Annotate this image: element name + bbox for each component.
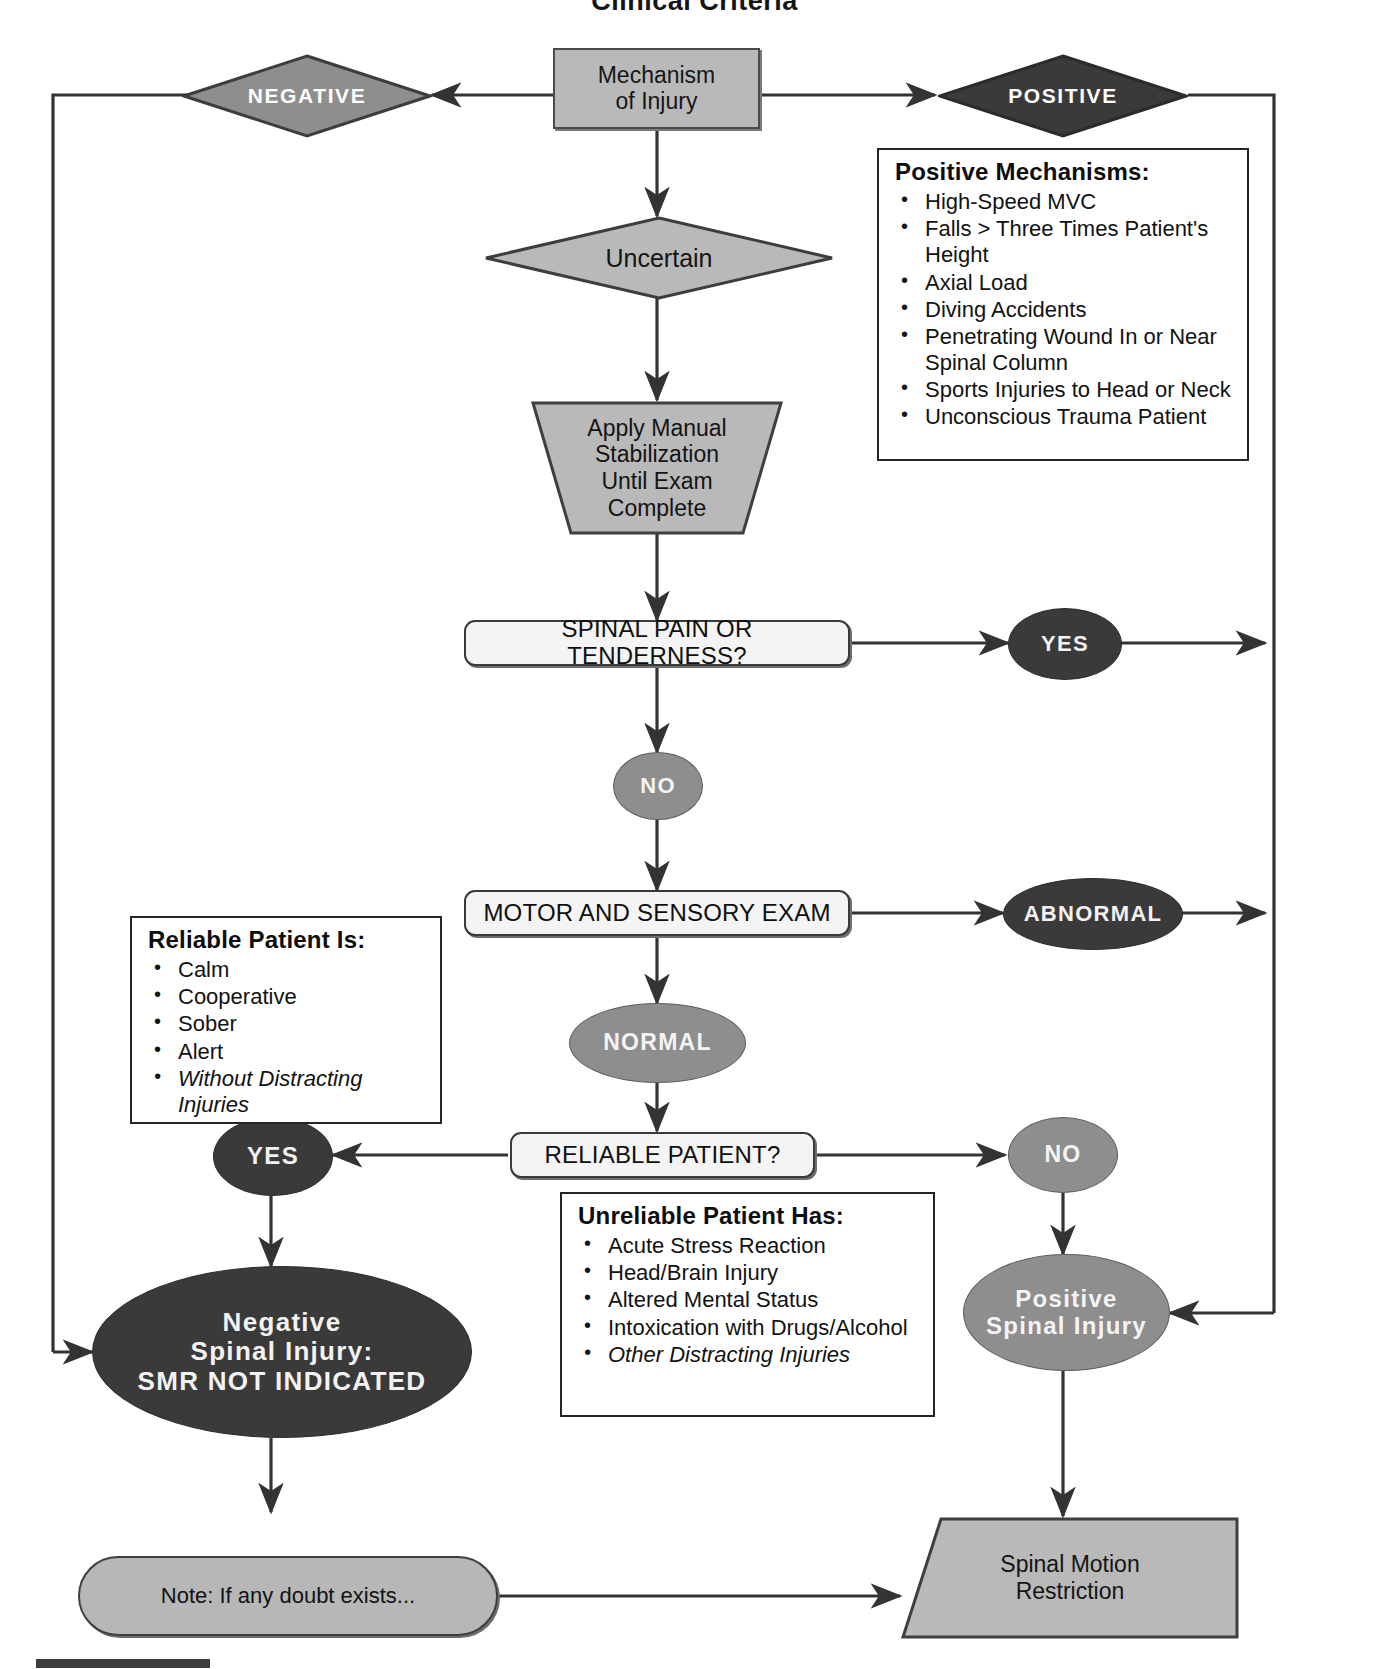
- node-spinal-pain-question[interactable]: SPINAL PAIN OR TENDERNESS?: [464, 620, 850, 666]
- negative-label: NEGATIVE: [182, 84, 432, 108]
- positive-label: POSITIVE: [938, 84, 1188, 108]
- positive-mechanisms-title: Positive Mechanisms:: [895, 158, 1237, 186]
- callout-positive-mechanisms: Positive Mechanisms: High-Speed MVC Fall…: [877, 148, 1249, 461]
- node-negative-outcome[interactable]: Negative Spinal Injury: SMR NOT INDICATE…: [92, 1266, 472, 1438]
- smr-line1: Spinal Motion: [1000, 1551, 1139, 1578]
- node-positive-decision[interactable]: POSITIVE: [938, 54, 1188, 138]
- node-negative-decision[interactable]: NEGATIVE: [182, 54, 432, 138]
- list-item: Calm: [178, 957, 430, 983]
- smr-label: Spinal Motion Restriction: [900, 1516, 1240, 1640]
- negative-outcome-line1: Negative: [138, 1308, 427, 1337]
- reliable-patient-title: Reliable Patient Is:: [148, 926, 430, 954]
- uncertain-label: Uncertain: [484, 244, 834, 272]
- list-item: High-Speed MVC: [925, 189, 1237, 215]
- node-reliable-no[interactable]: NO: [1008, 1117, 1118, 1193]
- stabilization-label: Apply Manual Stabilization Until Exam Co…: [530, 400, 784, 536]
- positive-outcome-line2: Spinal Injury: [986, 1313, 1147, 1340]
- node-reliable-yes[interactable]: YES: [213, 1117, 333, 1196]
- list-item: Sports Injuries to Head or Neck: [925, 377, 1237, 403]
- positive-outcome-line1: Positive: [986, 1286, 1147, 1313]
- positive-mechanisms-list: High-Speed MVC Falls > Three Times Patie…: [891, 189, 1237, 431]
- reliable-no-label: NO: [1044, 1142, 1081, 1168]
- list-item: Altered Mental Status: [608, 1287, 923, 1313]
- spinal-pain-no-label: NO: [640, 774, 676, 799]
- list-item: Cooperative: [178, 984, 430, 1010]
- list-item: Unconscious Trauma Patient: [925, 404, 1237, 430]
- page-title: Clinical Criteria: [0, 0, 1389, 17]
- node-spinal-pain-yes[interactable]: YES: [1008, 608, 1122, 680]
- node-motor-sensory-exam[interactable]: MOTOR AND SENSORY EXAM: [464, 890, 850, 936]
- callout-unreliable-patient: Unreliable Patient Has: Acute Stress Rea…: [560, 1192, 935, 1417]
- stabilization-line1: Apply Manual: [587, 415, 726, 442]
- reliable-patient-label: RELIABLE PATIENT?: [545, 1142, 781, 1169]
- unreliable-patient-list: Acute Stress Reaction Head/Brain Injury …: [574, 1233, 923, 1368]
- list-item: Acute Stress Reaction: [608, 1233, 923, 1259]
- node-spinal-motion-restriction[interactable]: Spinal Motion Restriction: [900, 1516, 1240, 1640]
- node-motor-abnormal[interactable]: ABNORMAL: [1003, 878, 1183, 950]
- stabilization-line4: Complete: [587, 495, 726, 522]
- node-uncertain-decision[interactable]: Uncertain: [484, 216, 834, 300]
- motor-normal-label: NORMAL: [603, 1030, 712, 1056]
- mechanism-line1: Mechanism: [598, 63, 716, 89]
- node-mechanism-of-injury[interactable]: Mechanism of Injury: [553, 48, 760, 129]
- motor-abnormal-label: ABNORMAL: [1024, 902, 1163, 927]
- list-item: Intoxication with Drugs/Alcohol: [608, 1315, 923, 1341]
- list-item: Penetrating Wound In or Near Spinal Colu…: [925, 324, 1237, 376]
- motor-sensory-label: MOTOR AND SENSORY EXAM: [483, 900, 830, 927]
- list-item: Sober: [178, 1011, 430, 1037]
- mechanism-line2: of Injury: [598, 89, 716, 115]
- list-item: Other Distracting Injuries: [608, 1342, 923, 1368]
- smr-line2: Restriction: [1000, 1578, 1139, 1605]
- node-positive-outcome[interactable]: Positive Spinal Injury: [963, 1254, 1170, 1371]
- spinal-pain-yes-label: YES: [1041, 632, 1089, 657]
- footer-rule: [36, 1659, 210, 1668]
- stabilization-line3: Until Exam: [587, 468, 726, 495]
- callout-reliable-patient: Reliable Patient Is: Calm Cooperative So…: [130, 916, 442, 1124]
- node-note[interactable]: Note: If any doubt exists...: [78, 1556, 498, 1636]
- negative-outcome-line2: Spinal Injury:: [138, 1337, 427, 1366]
- reliable-patient-list: Calm Cooperative Sober Alert Without Dis…: [144, 957, 430, 1118]
- list-item: Without Distracting Injuries: [178, 1066, 430, 1118]
- note-label: Note: If any doubt exists...: [161, 1584, 415, 1609]
- flowchart-canvas: Clinical Criteria: [0, 0, 1389, 1669]
- spinal-pain-label: SPINAL PAIN OR TENDERNESS?: [478, 616, 836, 670]
- negative-outcome-line3: SMR NOT INDICATED: [138, 1367, 427, 1396]
- list-item: Alert: [178, 1039, 430, 1065]
- list-item: Falls > Three Times Patient's Height: [925, 216, 1237, 268]
- reliable-yes-label: YES: [247, 1143, 299, 1170]
- unreliable-patient-title: Unreliable Patient Has:: [578, 1202, 923, 1230]
- list-item: Head/Brain Injury: [608, 1260, 923, 1286]
- node-spinal-pain-no[interactable]: NO: [613, 752, 703, 820]
- node-motor-normal[interactable]: NORMAL: [569, 1003, 746, 1083]
- node-apply-manual-stabilization[interactable]: Apply Manual Stabilization Until Exam Co…: [530, 400, 784, 536]
- list-item: Diving Accidents: [925, 297, 1237, 323]
- node-reliable-patient-question[interactable]: RELIABLE PATIENT?: [510, 1132, 815, 1178]
- list-item: Axial Load: [925, 270, 1237, 296]
- stabilization-line2: Stabilization: [587, 441, 726, 468]
